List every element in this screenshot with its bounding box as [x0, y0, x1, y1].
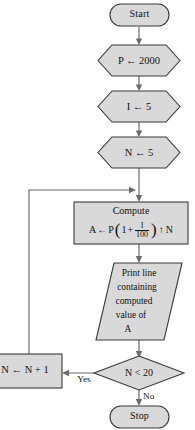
flowchart-canvas: Start P ← 2000 I ← 5 N ← 5 Compute A ← P… — [0, 0, 195, 430]
connector-init-p-to-init-i — [136, 76, 142, 91]
node-print — [96, 263, 182, 340]
connector-start-to-init-p — [136, 27, 142, 45]
node-init-n — [98, 137, 180, 168]
node-stop — [110, 406, 169, 428]
connector-print-to-decision — [136, 340, 142, 358]
node-init-p — [98, 45, 180, 76]
node-compute — [74, 202, 188, 244]
connector-init-n-to-compute — [136, 168, 142, 202]
node-increment — [0, 354, 62, 388]
connector-init-i-to-init-n — [136, 122, 142, 137]
node-init-i — [98, 91, 180, 122]
flowchart-shapes-layer — [0, 0, 195, 430]
connector-decision-to-stop-no — [136, 390, 142, 406]
node-decision — [94, 356, 184, 390]
node-start — [110, 4, 169, 26]
connector-compute-to-print — [136, 244, 142, 263]
